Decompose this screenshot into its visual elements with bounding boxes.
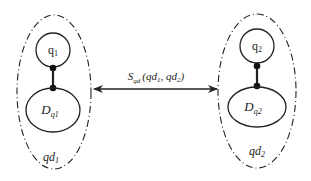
left-group-boundary	[17, 15, 91, 169]
right-group-label: qd2	[249, 144, 265, 159]
node-q1-label: q1	[48, 43, 58, 58]
relation: Sqd(qd1, qd2)	[94, 70, 217, 89]
left-group-label: qd1	[43, 150, 59, 165]
node-dq2-label: Dq2	[243, 99, 261, 116]
right-group: q2 Dq2 qd2	[218, 14, 296, 168]
junction-dot-top-right	[254, 63, 261, 70]
junction-dot-top-left	[50, 65, 57, 72]
left-group: q1 Dq1 qd1	[17, 15, 91, 169]
diagram-canvas: q1 Dq1 qd1 Sqd(qd1, qd2) q2 Dq2 qd2	[0, 0, 311, 181]
node-q2-label: q2	[252, 39, 262, 54]
node-dq1-label: Dq1	[40, 102, 58, 119]
junction-dot-bottom-right	[254, 83, 261, 90]
relation-label: Sqd(qd1, qd2)	[128, 70, 185, 85]
